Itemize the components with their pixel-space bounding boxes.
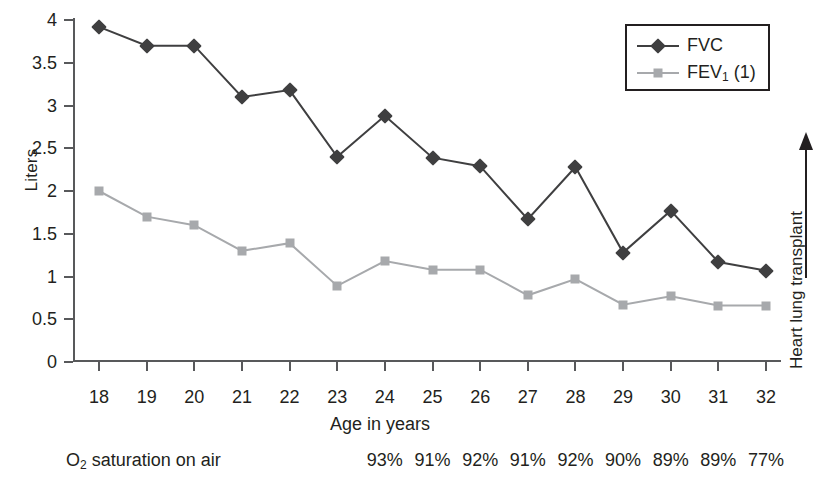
data-point-fev1: [237, 246, 246, 255]
y-tick-label: 4: [47, 10, 57, 31]
x-tick-label: 31: [708, 387, 728, 408]
data-point-fev1: [523, 291, 532, 300]
y-tick: 2.5: [64, 147, 73, 149]
legend-label-fev1-main: FEV: [687, 62, 722, 82]
y-tick-label: 1.5: [32, 223, 57, 244]
x-tick: 32: [765, 362, 767, 371]
o2-saturation-value: 91%: [414, 450, 450, 471]
x-tick-label: 19: [137, 387, 157, 408]
y-tick: 0: [64, 361, 73, 363]
y-tick-label: 0.5: [32, 309, 57, 330]
x-tick: 27: [527, 362, 529, 371]
x-tick-label: 25: [422, 387, 442, 408]
o2-label-sub: 2: [80, 458, 87, 472]
o2-saturation-value: 89%: [653, 450, 689, 471]
x-tick: 29: [622, 362, 624, 371]
x-tick: 19: [146, 362, 148, 371]
data-point-fev1: [95, 187, 104, 196]
o2-label-tail: saturation on air: [87, 450, 221, 470]
x-tick-label: 32: [756, 387, 776, 408]
data-point-fev1: [333, 281, 342, 290]
o2-saturation-value: 91%: [510, 450, 546, 471]
x-tick: 23: [336, 362, 338, 371]
legend-label-fev1-tail: (1): [729, 62, 756, 82]
x-tick-label: 21: [232, 387, 252, 408]
y-tick: 1.5: [64, 233, 73, 235]
x-tick-label: 18: [89, 387, 109, 408]
y-tick-label: 3.5: [32, 52, 57, 73]
y-tick: 2: [64, 190, 73, 192]
x-axis-title: Age in years: [0, 414, 760, 435]
data-point-fev1: [571, 275, 580, 284]
x-tick-label: 30: [661, 387, 681, 408]
y-tick: 3.5: [64, 62, 73, 64]
x-tick: 26: [479, 362, 481, 371]
x-tick: 24: [384, 362, 386, 371]
x-tick-label: 20: [184, 387, 204, 408]
x-tick-label: 29: [613, 387, 633, 408]
transplant-annotation-text: Heart lung transplant: [787, 190, 807, 390]
x-tick: 20: [193, 362, 195, 371]
x-tick: 21: [241, 362, 243, 371]
data-point-fev1: [380, 257, 389, 266]
y-axis-title: Liters: [22, 120, 42, 220]
y-tick-label: 0: [47, 352, 57, 373]
data-point-fev1: [619, 300, 628, 309]
y-tick-label: 1: [47, 266, 57, 287]
data-point-fev1: [285, 239, 294, 248]
x-tick-label: 24: [375, 387, 395, 408]
data-point-fev1: [762, 301, 771, 310]
o2-saturation-value: 77%: [748, 450, 784, 471]
o2-saturation-value: 92%: [462, 450, 498, 471]
data-point-fev1: [428, 265, 437, 274]
data-point-fev1: [190, 221, 199, 230]
data-point-fev1: [142, 212, 151, 221]
y-tick-label: 3: [47, 95, 57, 116]
o2-saturation-value: 93%: [367, 450, 403, 471]
data-point-fev1: [476, 265, 485, 274]
legend: FVC FEV1 (1): [625, 24, 770, 91]
legend-label-fev1: FEV1 (1): [687, 62, 756, 83]
x-tick-label: 27: [518, 387, 538, 408]
o2-label-main: O: [66, 450, 80, 470]
o2-saturation-value: 90%: [605, 450, 641, 471]
square-marker-icon: [637, 67, 679, 79]
x-tick: 22: [289, 362, 291, 371]
legend-label-fev1-sub: 1: [722, 70, 729, 84]
o2-saturation-value: 89%: [700, 450, 736, 471]
y-tick: 3: [64, 105, 73, 107]
y-tick-label: 2: [47, 181, 57, 202]
legend-label-fvc: FVC: [687, 35, 723, 56]
legend-item-fev1: FEV1 (1): [627, 59, 768, 86]
y-tick: 4: [64, 19, 73, 21]
o2-saturation-value: 92%: [557, 450, 593, 471]
x-tick-label: 23: [327, 387, 347, 408]
data-point-fev1: [714, 301, 723, 310]
x-tick-label: 22: [280, 387, 300, 408]
x-tick-label: 28: [565, 387, 585, 408]
x-tick: 31: [717, 362, 719, 371]
chart-root: Liters 00.511.522.533.54 181920212223242…: [0, 0, 821, 501]
x-tick: 18: [98, 362, 100, 371]
data-point-fev1: [666, 292, 675, 301]
x-tick: 25: [432, 362, 434, 371]
o2-saturation-label: O2 saturation on air: [66, 450, 221, 471]
x-tick: 28: [574, 362, 576, 371]
diamond-marker-icon: [637, 40, 679, 52]
legend-item-fvc: FVC: [627, 32, 768, 59]
y-tick: 1: [64, 276, 73, 278]
x-tick: 30: [670, 362, 672, 371]
x-tick-label: 26: [470, 387, 490, 408]
y-tick-label: 2.5: [32, 138, 57, 159]
y-tick: 0.5: [64, 318, 73, 320]
